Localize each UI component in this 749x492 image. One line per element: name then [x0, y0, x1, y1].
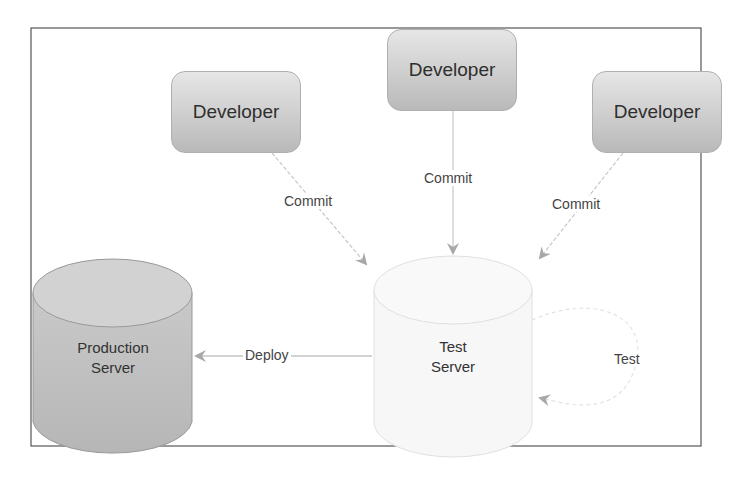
commit-label-center: Commit: [422, 170, 474, 186]
deploy-label: Deploy: [243, 347, 291, 363]
test-label: Test: [612, 351, 642, 367]
developer-label: Developer: [409, 59, 496, 81]
commit-label-right: Commit: [550, 196, 602, 212]
developer-label: Developer: [614, 101, 701, 123]
test-server-line2: Server: [405, 357, 501, 377]
developer-node-right[interactable]: Developer: [592, 71, 722, 153]
diagram-canvas: Developer Developer Developer Commit Com…: [0, 0, 749, 492]
commit-label-left: Commit: [282, 193, 334, 209]
developer-node-center[interactable]: Developer: [387, 29, 517, 111]
production-server-label: Production Server: [52, 338, 174, 378]
production-server-line1: Production: [52, 338, 174, 358]
production-server-line2: Server: [52, 358, 174, 378]
test-server-line1: Test: [405, 337, 501, 357]
developer-label: Developer: [193, 101, 280, 123]
test-server-label: Test Server: [405, 337, 501, 377]
developer-node-left[interactable]: Developer: [171, 71, 301, 153]
